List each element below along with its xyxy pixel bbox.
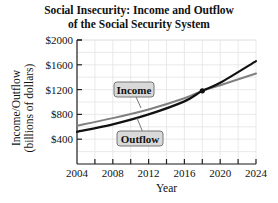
x-tick-label: 2024 bbox=[245, 167, 268, 179]
grid-lines bbox=[77, 40, 256, 164]
x-tick-label: 2012 bbox=[138, 167, 160, 179]
income-callout-pointer bbox=[136, 97, 141, 108]
outflow-callout-pointer bbox=[137, 118, 142, 131]
y-tick-label: $1600 bbox=[46, 59, 74, 71]
y-tick-label: $2000 bbox=[46, 34, 74, 46]
x-tick-label: 2004 bbox=[66, 167, 89, 179]
x-tick-label: 2020 bbox=[209, 167, 232, 179]
y-tick-label: $400 bbox=[51, 133, 74, 145]
y-axis-title: Income/Outflow bbox=[10, 69, 22, 146]
intersection-point bbox=[200, 88, 205, 93]
x-tick-label: 2016 bbox=[173, 167, 196, 179]
outflow-callout-label: Outflow bbox=[121, 133, 160, 145]
y-axis-subtitle: (billions of dollars) bbox=[23, 63, 36, 152]
y-tick-label: $800 bbox=[51, 108, 74, 120]
income-callout-label: Income bbox=[117, 84, 152, 96]
x-tick-label: 2008 bbox=[102, 167, 125, 179]
y-tick-label: $1200 bbox=[46, 84, 74, 96]
x-axis-title: Year bbox=[156, 182, 177, 194]
line-chart: IncomeOutflow $400$800$1200$1600$2000200… bbox=[0, 0, 278, 203]
